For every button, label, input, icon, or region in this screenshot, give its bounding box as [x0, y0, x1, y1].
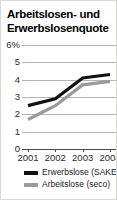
x-axis-tick	[110, 149, 111, 152]
y-axis-labels: 6%543210	[1, 45, 20, 149]
legend-item: Erwerbslose (SAKE)	[1, 167, 117, 178]
x-axis-tick-label: 2003	[72, 153, 93, 163]
legend-swatch-icon	[24, 183, 38, 187]
legend-item: Arbeitslose (seco)	[1, 179, 117, 190]
plot-area: 6%543210	[1, 45, 117, 149]
x-axis-tick-label: 2004	[99, 153, 117, 163]
y-axis-tick-label: 3	[0, 92, 20, 102]
x-axis-line	[22, 149, 116, 150]
x-axis-tick-label: 2001	[17, 153, 38, 163]
x-axis-tick	[55, 149, 56, 152]
x-axis-tick	[28, 149, 29, 152]
y-axis-tick-label: 6%	[0, 40, 20, 50]
x-axis: 2001200220032004	[1, 149, 117, 165]
x-axis-tick	[83, 149, 84, 152]
y-axis-tick-label: 5	[0, 58, 20, 68]
y-axis-tick-label: 4	[0, 75, 20, 85]
chart-title: Arbeitslosen- und Erwerbslosenquote	[7, 8, 113, 35]
legend-label: Erwerbslose (SAKE)	[42, 168, 117, 177]
chart-figure: Arbeitslosen- und Erwerbslosenquote 6%54…	[0, 0, 117, 200]
data-lines	[22, 45, 116, 149]
y-axis-tick-label: 1	[0, 127, 20, 137]
legend-label: Arbeitslose (seco)	[42, 180, 110, 189]
series-line	[28, 74, 110, 105]
legend-swatch-icon	[24, 171, 38, 175]
x-axis-tick-label: 2002	[45, 153, 66, 163]
y-axis-tick-label: 2	[0, 110, 20, 120]
x-axis-labels: 2001200220032004	[22, 153, 116, 167]
chart-legend: Erwerbslose (SAKE)Arbeitslose (seco)	[1, 167, 117, 191]
